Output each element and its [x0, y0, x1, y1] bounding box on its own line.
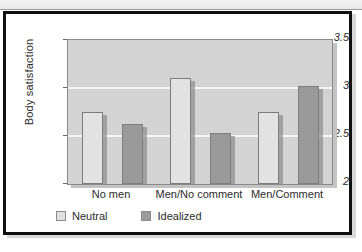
x-axis-label-2: Men/Comment: [227, 188, 347, 200]
chart-legend: Neutral Idealized: [56, 210, 202, 222]
y-axis-title: Body satisfaction: [23, 17, 35, 147]
figure-frame: Body satisfaction 22.533.5 No menMen/No …: [3, 11, 352, 235]
bar-shadow: [191, 81, 195, 184]
bar-neutral-2: [258, 112, 279, 184]
page-top-divider: [0, 9, 362, 10]
figure-drop-shadow-right: [352, 14, 356, 238]
bar-shadow: [319, 89, 323, 184]
page-top-band: [0, 0, 362, 9]
legend-item-idealized: Idealized: [141, 210, 201, 222]
bar-shadow: [143, 127, 147, 184]
bar-neutral-1: [170, 78, 191, 184]
legend-swatch-neutral: [56, 211, 66, 221]
bar-idealized-0: [122, 124, 143, 184]
plot-area: [67, 39, 333, 185]
bar-chart: Body satisfaction 22.533.5 No menMen/No …: [6, 14, 349, 232]
bar-idealized-2: [298, 86, 319, 184]
bar-idealized-1: [210, 133, 231, 184]
legend-swatch-idealized: [141, 211, 151, 221]
legend-label-idealized: Idealized: [157, 210, 201, 222]
plot-shadow-right: [333, 43, 337, 188]
gridline: [68, 87, 332, 89]
gridline: [68, 135, 332, 137]
bar-shadow: [279, 115, 283, 184]
bar-shadow: [231, 136, 235, 184]
bar-shadow: [103, 115, 107, 184]
legend-item-neutral: Neutral: [56, 210, 107, 222]
legend-label-neutral: Neutral: [72, 210, 107, 222]
figure-drop-shadow-bottom: [7, 235, 356, 238]
bar-neutral-0: [82, 112, 103, 184]
